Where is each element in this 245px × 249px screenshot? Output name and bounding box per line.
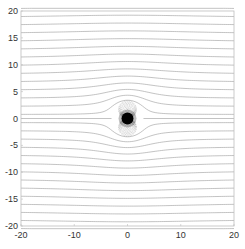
x-tick-label: 20 [229, 230, 239, 240]
y-tick-label: -10 [5, 167, 18, 177]
y-tick-label: -5 [10, 140, 18, 150]
y-tick-label: 15 [8, 33, 18, 43]
doublet-core-halo [119, 110, 137, 128]
x-tick-label: 0 [125, 230, 130, 240]
doublet-core [119, 110, 137, 128]
y-axis-ticks: -20-15-10-505101520 [5, 6, 23, 231]
y-tick-label: 0 [13, 114, 18, 124]
y-tick-label: 20 [8, 6, 18, 16]
x-tick-label: 10 [176, 230, 186, 240]
y-tick-label: 10 [8, 60, 18, 70]
x-tick-label: -10 [68, 230, 81, 240]
y-tick-label: -15 [5, 194, 18, 204]
y-tick-label: 5 [13, 87, 18, 97]
x-tick-label: -20 [14, 230, 27, 240]
streamline-chart: -20-15-10-505101520 -20-1001020 [0, 0, 245, 249]
